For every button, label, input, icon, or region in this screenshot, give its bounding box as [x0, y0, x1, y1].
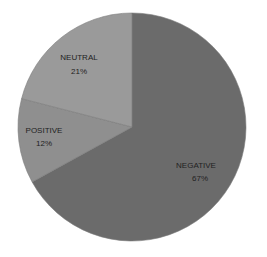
label-positive-pct: 12%	[36, 139, 52, 148]
label-neutral-pct: 21%	[71, 67, 87, 76]
label-positive-name: POSITIVE	[26, 126, 63, 135]
label-negative-pct: 67%	[192, 174, 208, 183]
label-neutral-name: NEUTRAL	[60, 53, 98, 62]
pie-chart: NEGATIVE 67% POSITIVE 12% NEUTRAL 21%	[0, 0, 267, 257]
label-negative-name: NEGATIVE	[176, 161, 216, 170]
